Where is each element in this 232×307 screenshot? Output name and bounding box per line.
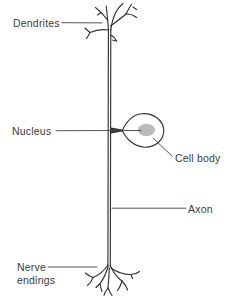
label-dendrites: Dendrites bbox=[13, 17, 60, 29]
axon-line bbox=[108, 29, 111, 267]
label-cell-body: Cell body bbox=[175, 152, 221, 164]
label-nucleus: Nucleus bbox=[12, 125, 51, 137]
leader-lines-group bbox=[48, 23, 186, 267]
dendrites-drawing bbox=[85, 4, 137, 42]
label-nerve-endings: Nerve endings bbox=[17, 261, 67, 287]
label-axon: Axon bbox=[188, 203, 213, 215]
leader-line-cell-body bbox=[154, 139, 173, 157]
nerve-endings-drawing bbox=[86, 265, 140, 296]
neuron-diagram: Dendrites Nucleus Cell body Axon Nerve e… bbox=[0, 0, 232, 307]
nucleus-shape bbox=[138, 124, 155, 136]
neuron-outline-group bbox=[85, 4, 164, 296]
